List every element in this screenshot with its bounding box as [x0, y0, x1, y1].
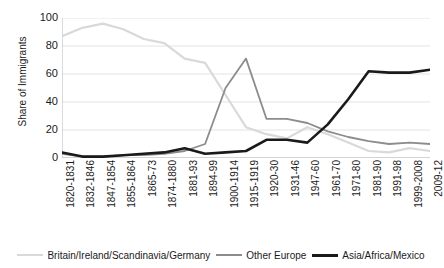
legend-item-1[interactable]: Other Europe [216, 250, 306, 261]
x-tick-15: 1981-90 [373, 160, 383, 238]
series-canvas [62, 18, 430, 158]
x-tick-3: 1855-1864 [127, 160, 137, 238]
y-tick-80: 80 [24, 40, 58, 51]
legend-label-0: Britain/Ireland/Scandinavia/Germany [47, 250, 210, 261]
x-tick-13: 1961-70 [332, 160, 342, 238]
x-tick-2: 1847-1854 [107, 160, 117, 238]
x-tick-0: 1820-1831 [66, 160, 76, 238]
x-tick-11: 1931-46 [291, 160, 301, 238]
x-tick-16: 1991-98 [393, 160, 403, 238]
x-tick-7: 1894-99 [209, 160, 219, 238]
x-tick-8: 1900-1914 [230, 160, 240, 238]
legend-label-1: Other Europe [246, 250, 306, 261]
x-tick-17: 1999-2008 [414, 160, 424, 238]
legend-label-2: Asia/Africa/Mexico [342, 250, 424, 261]
series-line-2 [62, 70, 430, 157]
x-tick-5: 1874-1880 [168, 160, 178, 238]
y-axis-tick-labels: 020406080100 [20, 0, 58, 268]
series-line-1 [62, 59, 430, 157]
legend-item-0[interactable]: Britain/Ireland/Scandinavia/Germany [17, 250, 210, 261]
y-tick-60: 60 [24, 68, 58, 79]
y-tick-0: 0 [24, 152, 58, 163]
chart-legend: Britain/Ireland/Scandinavia/GermanyOther… [0, 246, 442, 264]
x-tick-18: 2009-12 [434, 160, 444, 238]
x-tick-9: 1915-1919 [250, 160, 260, 238]
y-tick-100: 100 [24, 12, 58, 23]
legend-swatch-0 [17, 254, 43, 256]
series-line-0 [62, 24, 430, 153]
x-tick-6: 1881-93 [189, 160, 199, 238]
x-tick-10: 1920-30 [270, 160, 280, 238]
x-axis-tick-labels: 1820-18311832-18461847-18541855-18641865… [62, 160, 430, 238]
x-tick-4: 1865-73 [148, 160, 158, 238]
y-tick-40: 40 [24, 96, 58, 107]
legend-swatch-1 [216, 254, 242, 256]
legend-swatch-2 [312, 254, 338, 257]
x-tick-14: 1971-80 [352, 160, 362, 238]
legend-item-2[interactable]: Asia/Africa/Mexico [312, 250, 424, 261]
plot-area [62, 18, 430, 158]
y-tick-20: 20 [24, 124, 58, 135]
x-tick-1: 1832-1846 [86, 160, 96, 238]
x-tick-12: 1947-60 [311, 160, 321, 238]
